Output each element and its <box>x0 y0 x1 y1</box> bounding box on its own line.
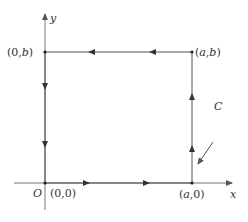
vertex-dot-0b <box>43 50 46 53</box>
origin-label: O <box>33 187 42 200</box>
ab-point-label: (a,b) <box>195 46 221 59</box>
vertex-dot-a0 <box>190 181 193 184</box>
contour-diagram: y x O (0,0) (a,0) (a,b) (0,b) C <box>0 0 248 222</box>
arrow-right-icon <box>83 180 90 186</box>
arrow-up-icon <box>189 145 195 152</box>
a0-point-label: (a,0) <box>179 188 205 201</box>
vertex-dot-ab <box>190 50 193 53</box>
arrow-left-icon <box>149 49 156 55</box>
origin-point-label: (0,0) <box>50 187 76 200</box>
curve-pointer-arrow <box>198 142 213 164</box>
y-axis-label: y <box>49 12 57 25</box>
arrow-right-icon <box>143 180 150 186</box>
0b-point-label: (0,b) <box>7 46 33 59</box>
arrow-left-icon <box>88 49 95 55</box>
arrow-down-icon <box>42 141 48 148</box>
x-axis-label: x <box>230 188 237 201</box>
vertex-dot-origin <box>43 181 46 184</box>
arrow-up-icon <box>189 93 195 100</box>
arrow-down-icon <box>42 83 48 90</box>
curve-label: C <box>214 100 223 113</box>
